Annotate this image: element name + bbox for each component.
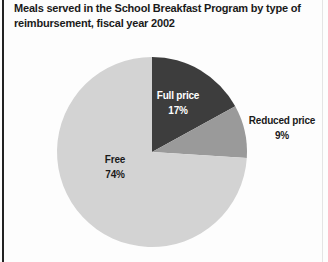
full-price-label-text: Full price	[148, 88, 208, 103]
full-price-slice-label: Full price 17%	[148, 88, 208, 118]
reduced-price-pct-text: 9%	[236, 128, 328, 143]
free-pct-text: 74%	[85, 167, 145, 182]
free-slice-label: Free 74%	[85, 152, 145, 182]
reduced-price-slice-label: Reduced price 9%	[236, 113, 328, 143]
reduced-price-label-text: Reduced price	[236, 113, 328, 128]
free-label-text: Free	[85, 152, 145, 167]
full-price-pct-text: 17%	[148, 103, 208, 118]
